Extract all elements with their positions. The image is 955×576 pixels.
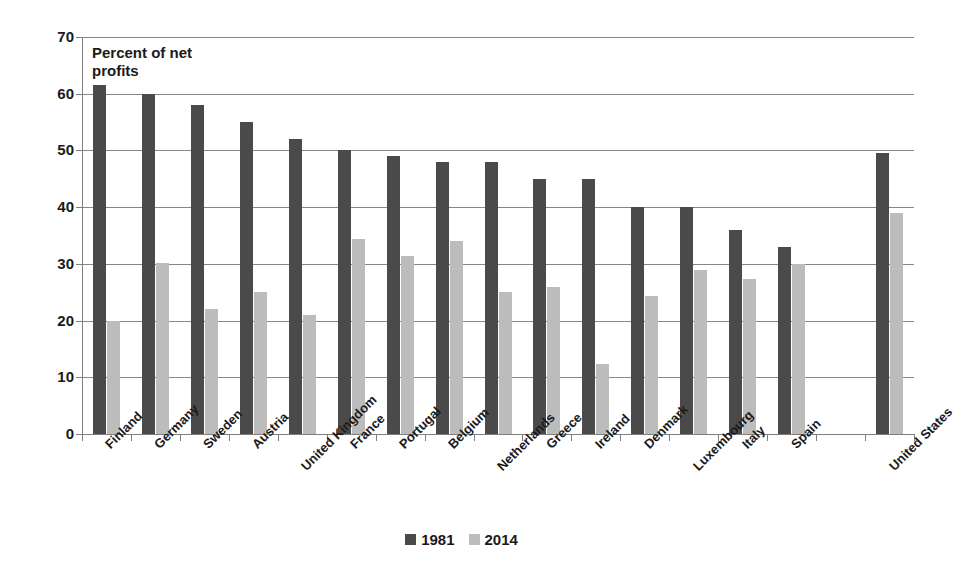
bar-group bbox=[582, 37, 609, 434]
bar-1981[interactable] bbox=[240, 122, 253, 434]
bar-2014[interactable] bbox=[596, 364, 609, 434]
bar-group bbox=[387, 37, 414, 434]
y-tick-label-70: 70 bbox=[34, 29, 74, 44]
bar-1981[interactable] bbox=[436, 162, 449, 434]
bar-1981[interactable] bbox=[338, 150, 351, 434]
bar-1981[interactable] bbox=[533, 179, 546, 434]
bar-group bbox=[533, 37, 560, 434]
bar-1981[interactable] bbox=[191, 105, 204, 434]
bar-group bbox=[631, 37, 658, 434]
legend-item-2014[interactable]: 2014 bbox=[469, 531, 518, 548]
legend-label-2014: 2014 bbox=[485, 531, 518, 548]
bar-1981[interactable] bbox=[485, 162, 498, 434]
bar-group bbox=[191, 37, 218, 434]
y-tick-label-50: 50 bbox=[34, 142, 74, 157]
bar-2014[interactable] bbox=[499, 292, 512, 434]
bar-2014[interactable] bbox=[694, 270, 707, 434]
bar-group bbox=[485, 37, 512, 434]
bar-group bbox=[778, 37, 805, 434]
legend-swatch-1981-icon bbox=[405, 534, 416, 545]
bar-1981[interactable] bbox=[729, 230, 742, 434]
x-axis-category-labels: FinlandGermanySwedenAustriaUnited Kingdo… bbox=[82, 441, 914, 531]
bar-2014[interactable] bbox=[792, 264, 805, 434]
bar-1981[interactable] bbox=[680, 207, 693, 434]
bar-group bbox=[338, 37, 365, 434]
legend-label-1981: 1981 bbox=[421, 531, 454, 548]
bars-layer bbox=[82, 37, 914, 434]
y-tick-label-30: 30 bbox=[34, 256, 74, 271]
bar-group bbox=[289, 37, 316, 434]
legend-item-1981[interactable]: 1981 bbox=[405, 531, 454, 548]
chart-legend: 1981 2014 bbox=[0, 531, 923, 548]
bar-2014[interactable] bbox=[254, 292, 267, 434]
bar-group bbox=[680, 37, 707, 434]
bar-group bbox=[240, 37, 267, 434]
bar-1981[interactable] bbox=[631, 207, 644, 434]
bar-group bbox=[142, 37, 169, 434]
bar-group bbox=[876, 37, 903, 434]
bar-2014[interactable] bbox=[645, 296, 658, 434]
y-tick-label-60: 60 bbox=[34, 86, 74, 101]
plot-annotation: Percent of net profits bbox=[92, 44, 212, 81]
bar-group bbox=[93, 37, 120, 434]
bar-1981[interactable] bbox=[876, 153, 889, 434]
y-tick-label-20: 20 bbox=[34, 313, 74, 328]
bar-1981[interactable] bbox=[142, 94, 155, 434]
bar-2014[interactable] bbox=[890, 213, 903, 434]
y-tick-label-0: 0 bbox=[34, 426, 74, 441]
bar-group bbox=[827, 37, 854, 434]
bar-2014[interactable] bbox=[303, 315, 316, 434]
bar-1981[interactable] bbox=[93, 85, 106, 434]
bar-2014[interactable] bbox=[107, 321, 120, 434]
bar-1981[interactable] bbox=[582, 179, 595, 434]
bar-2014[interactable] bbox=[205, 309, 218, 434]
y-tick-label-10: 10 bbox=[34, 369, 74, 384]
bar-group bbox=[729, 37, 756, 434]
bar-group bbox=[436, 37, 463, 434]
bar-1981[interactable] bbox=[387, 156, 400, 434]
bar-1981[interactable] bbox=[778, 247, 791, 434]
y-axis-tick-labels: 706050403020100 bbox=[26, 37, 74, 434]
bar-2014[interactable] bbox=[401, 256, 414, 434]
bar-2014[interactable] bbox=[450, 241, 463, 434]
bar-2014[interactable] bbox=[156, 263, 169, 434]
y-tick-label-40: 40 bbox=[34, 199, 74, 214]
bar-1981[interactable] bbox=[289, 139, 302, 434]
legend-swatch-2014-icon bbox=[469, 534, 480, 545]
